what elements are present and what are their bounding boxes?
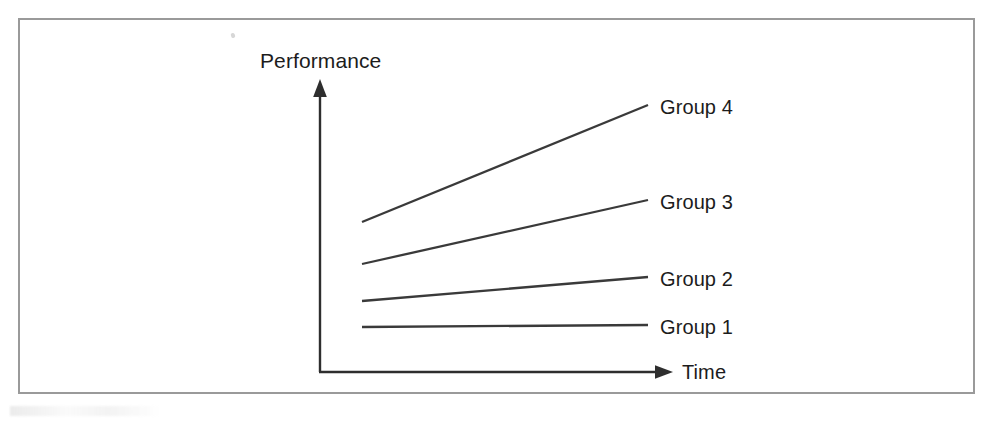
- line-chart-plot: [0, 0, 993, 427]
- series-line-group-1: [362, 325, 648, 327]
- series-line-group-2: [362, 277, 648, 301]
- y-axis-arrowhead: [313, 79, 327, 97]
- x-axis-label: Time: [682, 362, 726, 382]
- series-label-group-4: Group 4: [660, 97, 733, 117]
- series-line-group-4: [362, 105, 648, 222]
- series-label-group-1: Group 1: [660, 317, 733, 337]
- x-axis-arrowhead: [655, 365, 673, 379]
- series-label-group-3: Group 3: [660, 192, 733, 212]
- series-label-group-2: Group 2: [660, 269, 733, 289]
- series-line-group-3: [362, 200, 648, 264]
- y-axis-label: Performance: [260, 50, 381, 71]
